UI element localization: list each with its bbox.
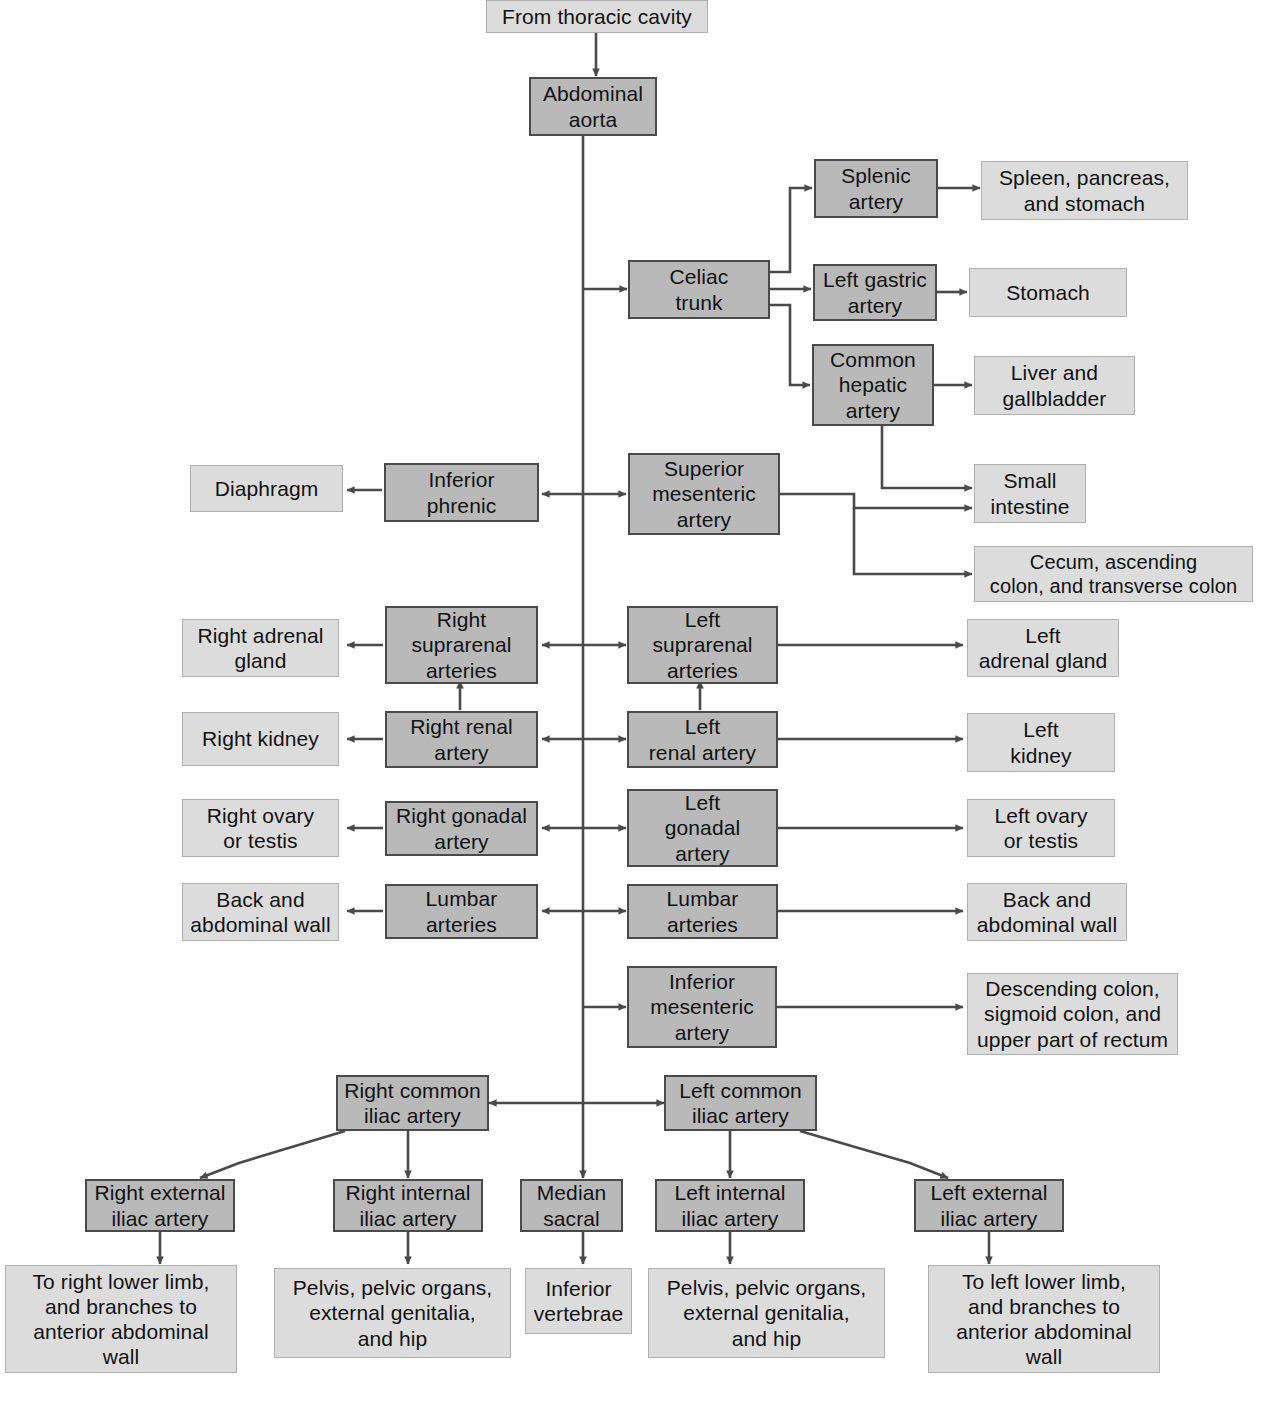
- node-cecum-ascending-transverse-colon: Cecum, ascending colon, and transverse c…: [974, 546, 1253, 602]
- node-stomach: Stomach: [969, 268, 1127, 317]
- node-splenic-artery: Splenic artery: [814, 159, 938, 218]
- node-lumbar-arteries-left: Lumbar arteries: [627, 884, 778, 939]
- node-spleen-pancreas-stomach: Spleen, pancreas, and stomach: [981, 161, 1188, 220]
- node-left-adrenal-gland: Left adrenal gland: [967, 619, 1119, 677]
- node-pelvis-right: Pelvis, pelvic organs, external genitali…: [274, 1268, 511, 1358]
- node-left-gonadal-artery: Left gonadal artery: [627, 789, 778, 867]
- node-left-common-iliac-artery: Left common iliac artery: [664, 1075, 817, 1131]
- node-small-intestine: Small intestine: [974, 464, 1086, 523]
- node-inferior-phrenic: Inferior phrenic: [384, 463, 539, 522]
- node-left-ovary-or-testis: Left ovary or testis: [967, 799, 1115, 857]
- node-left-external-iliac-artery: Left external iliac artery: [914, 1179, 1064, 1232]
- node-inferior-vertebrae: Inferior vertebrae: [525, 1268, 632, 1334]
- node-back-and-abdominal-wall-right: Back and abdominal wall: [967, 883, 1127, 941]
- node-back-and-abdominal-wall-left: Back and abdominal wall: [182, 883, 339, 941]
- flowchart-canvas: From thoracic cavity Abdominal aorta Cel…: [0, 0, 1263, 1402]
- node-descending-sigmoid-rectum: Descending colon, sigmoid colon, and upp…: [967, 973, 1178, 1055]
- node-lumbar-arteries-right: Lumbar arteries: [385, 884, 538, 939]
- node-left-renal-artery: Left renal artery: [627, 711, 778, 768]
- node-liver-and-gallbladder: Liver and gallbladder: [974, 356, 1135, 415]
- node-right-kidney: Right kidney: [182, 712, 339, 766]
- node-to-right-lower-limb: To right lower limb, and branches to ant…: [5, 1265, 237, 1373]
- node-diaphragm: Diaphragm: [190, 465, 343, 512]
- node-from-thoracic-cavity: From thoracic cavity: [486, 0, 708, 33]
- node-right-adrenal-gland: Right adrenal gland: [182, 619, 339, 677]
- node-abdominal-aorta: Abdominal aorta: [529, 77, 657, 136]
- node-to-left-lower-limb: To left lower limb, and branches to ante…: [928, 1265, 1160, 1373]
- node-right-renal-artery: Right renal artery: [385, 711, 538, 768]
- node-right-internal-iliac-artery: Right internal iliac artery: [333, 1179, 483, 1232]
- node-right-ovary-or-testis: Right ovary or testis: [182, 799, 339, 857]
- node-right-gonadal-artery: Right gonadal artery: [385, 801, 538, 856]
- node-right-suprarenal-arteries: Right suprarenal arteries: [385, 606, 538, 684]
- node-median-sacral: Median sacral: [520, 1179, 623, 1232]
- node-left-gastric-artery: Left gastric artery: [813, 264, 937, 321]
- node-common-hepatic-artery: Common hepatic artery: [812, 344, 934, 426]
- node-left-suprarenal-arteries: Left suprarenal arteries: [627, 606, 778, 684]
- node-inferior-mesenteric-artery: Inferior mesenteric artery: [627, 966, 777, 1048]
- node-left-internal-iliac-artery: Left internal iliac artery: [655, 1179, 805, 1232]
- node-superior-mesenteric-artery: Superior mesenteric artery: [628, 453, 780, 535]
- node-celiac-trunk: Celiac trunk: [628, 260, 770, 319]
- node-right-external-iliac-artery: Right external iliac artery: [85, 1179, 235, 1232]
- node-right-common-iliac-artery: Right common iliac artery: [336, 1075, 489, 1131]
- node-pelvis-left: Pelvis, pelvic organs, external genitali…: [648, 1268, 885, 1358]
- node-left-kidney: Left kidney: [967, 713, 1115, 772]
